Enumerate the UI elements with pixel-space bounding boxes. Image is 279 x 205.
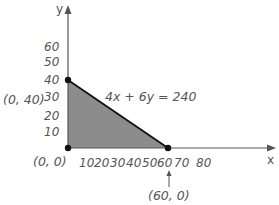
y-tick-30: 30 (44, 90, 60, 104)
y-tick-40: 40 (44, 73, 60, 87)
pointer-arrow-icon (167, 170, 172, 176)
x-tick-10: 10 (79, 156, 95, 170)
x-tick-40: 40 (126, 156, 142, 170)
x-axis-label: x (267, 153, 274, 167)
x-tick-50: 50 (142, 156, 158, 170)
x-tick-30: 30 (110, 156, 126, 170)
x-tick-20: 20 (94, 156, 110, 170)
feasible-region-diagram: y x 60 50 40 30 20 10 10 20 30 40 50 60 … (0, 0, 279, 205)
y-tick-50: 50 (44, 55, 60, 69)
point-0-40 (65, 77, 71, 83)
label-point-origin: (0, 0) (33, 154, 67, 169)
x-tick-60: 60 (157, 156, 173, 170)
point-60-0 (165, 145, 171, 151)
equation-label: 4x + 6y = 240 (105, 89, 196, 104)
label-point-0-40: (0, 40) (3, 92, 45, 107)
y-axis-label: y (56, 2, 63, 16)
y-tick-20: 20 (44, 109, 60, 123)
y-tick-60: 60 (44, 40, 60, 54)
label-point-60-0: (60, 0) (148, 188, 190, 203)
y-axis-arrow-icon (65, 5, 72, 14)
point-origin (65, 145, 71, 151)
x-tick-80: 80 (196, 156, 212, 170)
x-tick-70: 70 (174, 156, 190, 170)
y-tick-10: 10 (44, 125, 60, 139)
x-axis-arrow-icon (267, 145, 276, 152)
